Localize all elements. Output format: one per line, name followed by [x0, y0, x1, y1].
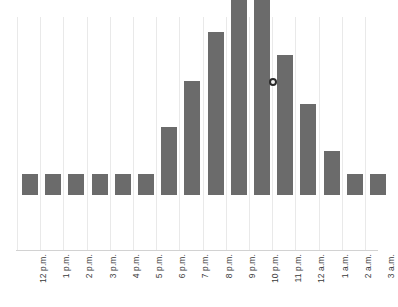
bar[interactable]: [300, 104, 316, 195]
bar[interactable]: [324, 151, 340, 195]
bar[interactable]: [161, 127, 177, 195]
x-tick-label: 10 p.m.: [268, 252, 282, 307]
x-tick-label: 8 p.m.: [222, 252, 236, 307]
x-tick-label: 12 p.m.: [36, 252, 50, 307]
gridline: [295, 17, 296, 250]
x-tick-label: 3 a.m.: [384, 252, 398, 307]
x-tick-label: 2 p.m.: [82, 252, 96, 307]
plot-area: [0, 0, 391, 252]
gridline: [40, 17, 41, 250]
x-axis-tick-labels: 12 p.m.1 p.m.2 p.m.3 p.m.4 p.m.5 p.m.6 p…: [0, 252, 391, 307]
bar[interactable]: [370, 174, 386, 195]
x-tick-label: 11 p.m.: [291, 252, 305, 307]
gridline: [365, 17, 366, 250]
x-tick-label: 12 a.m.: [314, 252, 328, 307]
bar[interactable]: [231, 0, 247, 195]
gridline: [133, 17, 134, 250]
x-axis-line: [16, 250, 378, 251]
gridline: [179, 17, 180, 250]
x-tick-label: 1 p.m.: [59, 252, 73, 307]
gridline: [87, 17, 88, 250]
x-tick-label: 9 p.m.: [245, 252, 259, 307]
x-tick-label: 3 p.m.: [106, 252, 120, 307]
bar[interactable]: [254, 0, 270, 195]
gridline: [319, 17, 320, 250]
bar[interactable]: [22, 174, 38, 195]
gridline: [63, 17, 64, 250]
bar[interactable]: [45, 174, 61, 195]
bar[interactable]: [115, 174, 131, 195]
x-tick-label: 6 p.m.: [175, 252, 189, 307]
bar[interactable]: [92, 174, 108, 195]
gridline: [203, 17, 204, 250]
hover-point-marker[interactable]: [269, 78, 277, 86]
gridline: [226, 17, 227, 250]
x-tick-label: 1 a.m.: [338, 252, 352, 307]
gridline: [17, 17, 18, 250]
bar[interactable]: [208, 32, 224, 195]
bar[interactable]: [347, 174, 363, 195]
gridline: [156, 17, 157, 250]
bar[interactable]: [184, 81, 200, 195]
gridline: [249, 17, 250, 250]
x-tick-label: 7 p.m.: [198, 252, 212, 307]
bar[interactable]: [68, 174, 84, 195]
x-tick-label: 5 p.m.: [152, 252, 166, 307]
gridline: [272, 17, 273, 250]
x-tick-label: 4 p.m.: [129, 252, 143, 307]
bar[interactable]: [138, 174, 154, 195]
bar[interactable]: [277, 55, 293, 195]
x-tick-label: 2 a.m.: [361, 252, 375, 307]
gridline: [110, 17, 111, 250]
gridline: [342, 17, 343, 250]
